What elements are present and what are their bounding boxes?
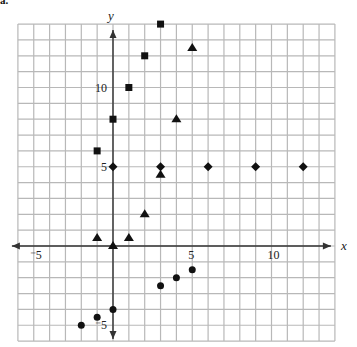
circle-marker xyxy=(110,306,117,313)
circle-marker xyxy=(157,282,164,289)
square-marker xyxy=(157,21,164,28)
circle-marker xyxy=(189,266,196,273)
triangle-marker xyxy=(156,170,166,178)
scatter-plot: ⁻5510⁻5510 x y xyxy=(0,0,357,347)
svg-text:⁻5: ⁻5 xyxy=(30,248,42,262)
square-marker xyxy=(125,84,132,91)
triangle-marker xyxy=(124,233,134,241)
square-marker xyxy=(141,52,148,59)
diamond-marker xyxy=(204,162,213,171)
triangle-marker xyxy=(140,209,150,217)
circle-marker xyxy=(78,322,85,329)
triangle-marker xyxy=(171,114,181,122)
y-axis-label: y xyxy=(106,8,114,23)
circle-marker xyxy=(173,274,180,281)
svg-text:5: 5 xyxy=(188,248,194,262)
svg-text:10: 10 xyxy=(95,81,107,95)
triangle-marker xyxy=(108,241,118,249)
x-axis-label: x xyxy=(340,238,347,253)
triangle-marker xyxy=(92,233,102,241)
circle-marker xyxy=(94,314,101,321)
diamond-marker xyxy=(109,162,118,171)
svg-text:10: 10 xyxy=(268,248,280,262)
grid-lines xyxy=(18,24,335,341)
square-marker xyxy=(110,116,117,123)
diamond-marker xyxy=(251,162,260,171)
diamond-marker xyxy=(299,162,308,171)
square-marker xyxy=(94,147,101,154)
triangle-marker xyxy=(187,43,197,51)
axes xyxy=(12,30,331,339)
series-circles xyxy=(78,266,196,328)
svg-text:5: 5 xyxy=(101,160,107,174)
tick-labels: ⁻5510⁻5510 xyxy=(30,81,280,333)
